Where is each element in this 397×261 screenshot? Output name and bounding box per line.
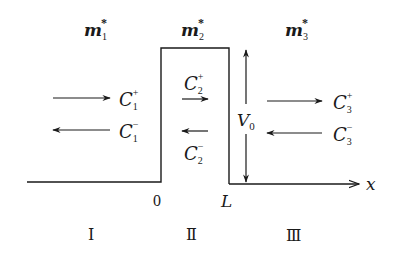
mass-label-region-1: m1* [84, 16, 107, 42]
mass-label-region-3: m3* [285, 16, 308, 42]
region-label-3: Ⅲ [286, 227, 301, 244]
x-axis-label: x [366, 174, 376, 194]
region-label-2: Ⅱ [186, 226, 197, 243]
region-label-1: Ⅰ [88, 226, 94, 243]
c2-plus-label: C2+ [184, 71, 204, 96]
c1-minus-label: C1− [119, 119, 139, 144]
width-label: L [220, 191, 232, 211]
potential-barrier-diagram: x V0 m1* m2* m3* C1+ C1− C2+ C2− C3+ C3−… [0, 0, 397, 261]
mass-label-region-2: m2* [181, 16, 204, 42]
c1-plus-label: C1+ [119, 87, 139, 112]
c2-minus-label: C2− [184, 141, 204, 166]
c3-minus-label: C3− [333, 122, 353, 147]
origin-label: 0 [153, 192, 161, 209]
c3-plus-label: C3+ [333, 90, 353, 115]
